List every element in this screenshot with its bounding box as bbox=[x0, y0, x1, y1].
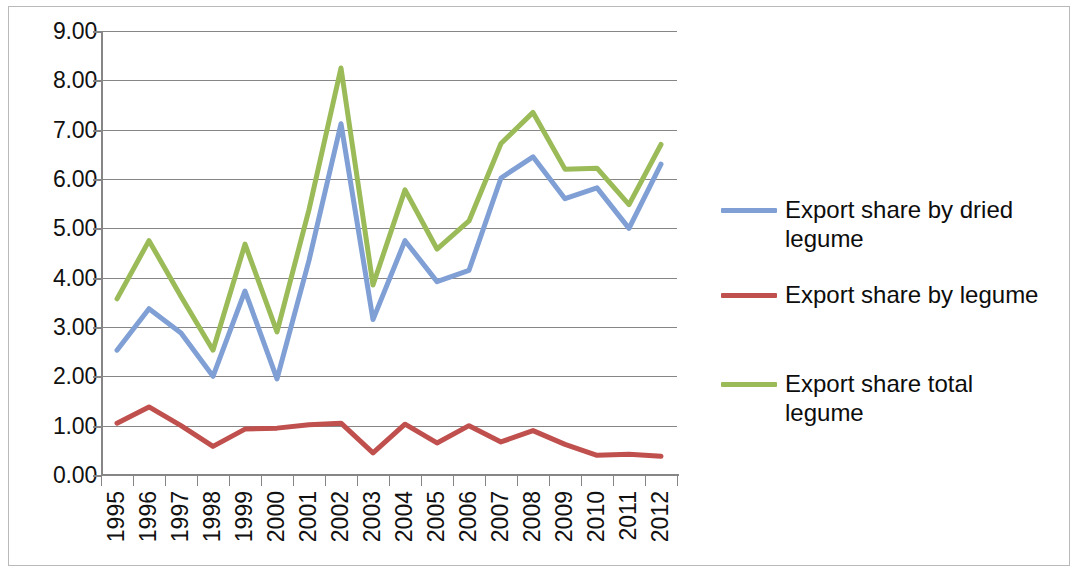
y-axis-tick bbox=[93, 130, 102, 132]
y-axis-tick-label: 3.00 bbox=[25, 316, 97, 339]
x-axis-tick-label: 1995 bbox=[105, 491, 128, 542]
legend-item-label: Export share by dried legume bbox=[785, 195, 1047, 254]
y-axis-tick bbox=[93, 278, 102, 280]
x-axis-tick-label: 1998 bbox=[201, 491, 224, 542]
legend-item-label: Export share by legume bbox=[785, 280, 1038, 309]
y-axis-tick-label: 1.00 bbox=[25, 414, 97, 437]
legend-item[interactable]: Export share by legume bbox=[721, 280, 1061, 309]
chart-container: 9.008.007.006.005.004.003.002.001.000.00… bbox=[8, 6, 1070, 566]
x-axis-tick bbox=[165, 476, 166, 486]
legend-color-swatch bbox=[721, 382, 777, 387]
legend-item[interactable]: Export share total legume bbox=[721, 369, 1061, 428]
x-axis-tick bbox=[613, 476, 614, 486]
x-axis-tick-label: 1999 bbox=[233, 491, 256, 542]
chart-legend: Export share by dried legumeExport share… bbox=[721, 195, 1061, 453]
legend-color-swatch bbox=[721, 208, 777, 213]
x-axis-tick bbox=[357, 476, 358, 486]
y-axis-tick bbox=[93, 228, 102, 230]
legend-item[interactable]: Export share by dried legume bbox=[721, 195, 1061, 254]
x-axis-tick-label: 2008 bbox=[521, 491, 544, 542]
x-axis-tick-label: 2001 bbox=[297, 491, 320, 542]
y-axis-tick-label: 5.00 bbox=[25, 217, 97, 240]
x-axis-tick-label: 2010 bbox=[585, 491, 608, 542]
x-axis-tick-label: 2006 bbox=[457, 491, 480, 542]
y-axis-tick bbox=[93, 327, 102, 329]
plot-area bbox=[101, 31, 677, 475]
x-axis-tick bbox=[325, 476, 326, 486]
x-axis-tick bbox=[645, 476, 646, 486]
y-axis-tick-label: 8.00 bbox=[25, 69, 97, 92]
legend-color-swatch bbox=[721, 293, 777, 298]
x-axis-tick-label: 1997 bbox=[169, 491, 192, 542]
x-axis-tick bbox=[677, 476, 678, 486]
series-line bbox=[117, 407, 661, 456]
x-axis-tick-label: 2002 bbox=[329, 491, 352, 542]
x-axis-tick bbox=[517, 476, 518, 486]
y-axis-tick-label: 7.00 bbox=[25, 118, 97, 141]
x-axis-tick-label: 2004 bbox=[393, 491, 416, 542]
x-axis-tick bbox=[261, 476, 262, 486]
y-axis-tick-label: 9.00 bbox=[25, 20, 97, 43]
y-axis-tick-label: 6.00 bbox=[25, 168, 97, 191]
x-axis-tick bbox=[389, 476, 390, 486]
series-line bbox=[117, 124, 661, 379]
x-axis-tick bbox=[549, 476, 550, 486]
x-axis-tick bbox=[293, 476, 294, 486]
legend-item-label: Export share total legume bbox=[785, 369, 1047, 428]
y-axis-tick-label: 4.00 bbox=[25, 266, 97, 289]
y-axis-tick bbox=[93, 475, 102, 477]
x-axis-tick bbox=[453, 476, 454, 486]
x-axis-tick bbox=[101, 476, 102, 486]
x-axis-tick-label: 2012 bbox=[649, 491, 672, 542]
y-axis-tick-label: 0.00 bbox=[25, 464, 97, 487]
x-axis-tick bbox=[581, 476, 582, 486]
y-axis-tick bbox=[93, 31, 102, 33]
x-axis-tick bbox=[197, 476, 198, 486]
x-axis-tick-label: 2009 bbox=[553, 491, 576, 542]
y-axis-tick-label: 2.00 bbox=[25, 365, 97, 388]
chart-plot-wrapper: 9.008.007.006.005.004.003.002.001.000.00… bbox=[9, 7, 1071, 567]
y-axis-tick bbox=[93, 426, 102, 428]
x-axis-tick bbox=[485, 476, 486, 486]
x-axis-tick bbox=[229, 476, 230, 486]
y-axis-tick bbox=[93, 376, 102, 378]
x-axis-tick-label: 2003 bbox=[361, 491, 384, 542]
series-line bbox=[117, 68, 661, 350]
y-axis-labels: 9.008.007.006.005.004.003.002.001.000.00 bbox=[19, 7, 97, 567]
x-axis-tick bbox=[421, 476, 422, 486]
x-axis-tick-label: 2007 bbox=[489, 491, 512, 542]
y-axis-tick bbox=[93, 179, 102, 181]
series-lines bbox=[101, 31, 677, 475]
x-axis-tick-label: 2005 bbox=[425, 491, 448, 542]
x-axis-tick-label: 2000 bbox=[265, 491, 288, 542]
x-axis-tick-label: 2011 bbox=[617, 491, 640, 540]
x-axis-tick bbox=[133, 476, 134, 486]
x-axis-tick-label: 1996 bbox=[137, 491, 160, 542]
y-axis-tick bbox=[93, 80, 102, 82]
